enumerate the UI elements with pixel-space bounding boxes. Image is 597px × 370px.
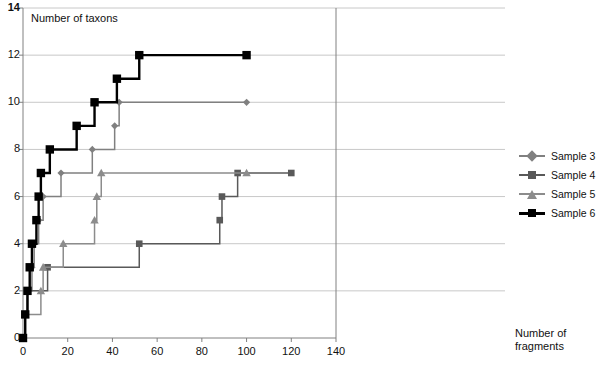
data-point-sample-6 xyxy=(32,216,40,224)
x-tick-label: 0 xyxy=(8,345,38,357)
x-tick-label: 60 xyxy=(142,345,172,357)
x-tick-label: 40 xyxy=(97,345,127,357)
chart-container: Number of taxons Number of fragments 024… xyxy=(0,0,597,370)
data-point-sample-4 xyxy=(216,217,223,224)
data-point-sample-6 xyxy=(135,51,143,59)
legend-marker-icon xyxy=(519,207,545,219)
data-point-sample-3 xyxy=(89,146,96,153)
legend-item-sample-5[interactable]: Sample 5 xyxy=(519,184,595,203)
data-point-sample-4 xyxy=(136,240,143,247)
data-point-sample-6 xyxy=(23,287,31,295)
legend-label: Sample 3 xyxy=(551,150,595,162)
legend-item-sample-4[interactable]: Sample 4 xyxy=(519,165,595,184)
data-point-sample-4 xyxy=(219,193,226,200)
legend-marker-icon xyxy=(519,188,545,200)
data-point-sample-3 xyxy=(243,99,250,106)
data-point-sample-3 xyxy=(57,169,64,176)
legend-label: Sample 4 xyxy=(551,169,595,181)
y-tick-label: 2 xyxy=(0,284,20,296)
legend-label: Sample 5 xyxy=(551,188,595,200)
series-line-sample-5 xyxy=(23,173,247,338)
data-point-sample-6 xyxy=(46,145,54,153)
data-point-sample-4 xyxy=(288,170,295,177)
legend-item-sample-6[interactable]: Sample 6 xyxy=(519,203,595,222)
data-point-sample-6 xyxy=(19,334,27,342)
legend-marker-icon xyxy=(519,169,545,181)
data-point-sample-6 xyxy=(21,310,29,318)
data-point-sample-6 xyxy=(26,263,34,271)
plot-area xyxy=(0,0,597,370)
data-point-sample-6 xyxy=(113,75,121,83)
y-tick-label: 0 xyxy=(0,331,20,343)
x-tick-label: 140 xyxy=(321,345,351,357)
legend-label: Sample 6 xyxy=(551,207,595,219)
y-tick-label: 6 xyxy=(0,190,20,202)
legend-item-sample-3[interactable]: Sample 3 xyxy=(519,146,595,165)
data-point-sample-6 xyxy=(242,51,250,59)
y-tick-label: 4 xyxy=(0,237,20,249)
x-tick-label: 20 xyxy=(53,345,83,357)
data-point-sample-6 xyxy=(34,192,42,200)
data-point-sample-6 xyxy=(28,240,36,248)
data-point-sample-3 xyxy=(111,122,118,129)
x-tick-label: 100 xyxy=(232,345,262,357)
data-point-sample-6 xyxy=(37,169,45,177)
series-line-sample-3 xyxy=(23,102,247,338)
y-tick-label: 10 xyxy=(0,95,20,107)
chart-legend: Sample 3Sample 4Sample 5Sample 6 xyxy=(519,146,595,222)
legend-marker-icon xyxy=(519,150,545,162)
y-tick-label: 14 xyxy=(0,1,20,13)
y-tick-label: 8 xyxy=(0,142,20,154)
data-point-sample-6 xyxy=(72,122,80,130)
data-point-sample-6 xyxy=(90,98,98,106)
y-tick-label: 12 xyxy=(0,48,20,60)
x-tick-label: 80 xyxy=(187,345,217,357)
x-tick-label: 120 xyxy=(276,345,306,357)
